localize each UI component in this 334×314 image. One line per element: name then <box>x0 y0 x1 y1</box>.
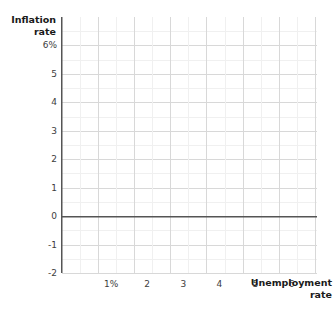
phillips-curve-chart: Inflation rate 6%543210-1-2 1%23456 Unem… <box>0 0 334 314</box>
x-tick-label: 2 <box>134 279 160 289</box>
x-axis-title: Unemployment rate <box>214 277 332 300</box>
x-tick-label: 1% <box>98 279 124 289</box>
x-tick-label: 3 <box>170 279 196 289</box>
x-axis-tick-labels: 1%23456 <box>0 0 334 314</box>
